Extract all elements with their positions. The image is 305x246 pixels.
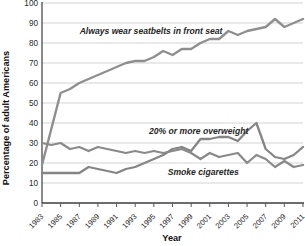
- y-axis-tick-labels: 0102030405060708090100: [24, 0, 38, 208]
- y-tick-label-70: 70: [29, 59, 39, 68]
- x-tick-label-1997: 1997: [158, 212, 176, 230]
- annotation-0: Always wear seatbelts in front seat: [79, 26, 224, 36]
- y-tick-label-30: 30: [29, 139, 39, 148]
- y-tick-label-0: 0: [33, 199, 38, 208]
- x-tick-label-1983: 1983: [27, 212, 45, 230]
- x-axis-title: Year: [162, 233, 182, 243]
- x-axis-tick-labels: 1983198519871989199119931995199719992001…: [27, 203, 305, 230]
- x-tick-label-2009: 2009: [269, 212, 287, 230]
- x-tick-label-2007: 2007: [251, 212, 269, 230]
- x-tick-label-2005: 2005: [232, 212, 250, 230]
- annotation-1: 20% or more overweight: [148, 126, 249, 136]
- y-tick-label-40: 40: [29, 119, 39, 128]
- x-tick-label-1987: 1987: [64, 212, 82, 230]
- chart-container: 0102030405060708090100 19831985198719891…: [0, 0, 305, 246]
- x-tick-label-1999: 1999: [176, 212, 194, 230]
- x-tick-label-2003: 2003: [214, 212, 232, 230]
- data-series-lines: [42, 19, 303, 173]
- y-tick-label-60: 60: [29, 79, 39, 88]
- annotation-2: Smoke cigarettes: [168, 167, 239, 177]
- x-tick-label-2011: 2011: [288, 212, 305, 230]
- y-tick-label-50: 50: [29, 99, 39, 108]
- line-chart: 0102030405060708090100 19831985198719891…: [0, 0, 305, 246]
- y-tick-label-100: 100: [24, 0, 38, 8]
- x-tick-label-1989: 1989: [83, 212, 101, 230]
- y-tick-label-90: 90: [29, 19, 39, 28]
- x-tick-label-1985: 1985: [46, 212, 64, 230]
- x-tick-label-1993: 1993: [120, 212, 138, 230]
- y-tick-label-10: 10: [29, 179, 39, 188]
- y-axis-title: Percentage of adult Americans: [1, 51, 11, 185]
- x-tick-label-1991: 1991: [102, 212, 120, 230]
- y-tick-label-20: 20: [29, 159, 39, 168]
- y-tick-label-80: 80: [29, 39, 39, 48]
- x-tick-label-2001: 2001: [195, 212, 213, 230]
- x-tick-label-1995: 1995: [139, 212, 157, 230]
